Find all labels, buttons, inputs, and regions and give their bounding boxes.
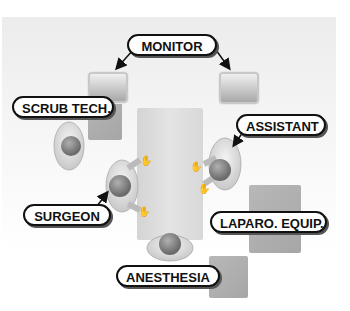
label-monitor: MONITOR	[127, 34, 217, 56]
svg-text:✋: ✋	[138, 205, 150, 217]
anesthesia-figure	[147, 233, 193, 261]
assistant-figure: ✋ ✋	[190, 138, 241, 194]
svg-text:✋: ✋	[140, 154, 152, 166]
surgeon-figure: ✋ ✋	[106, 154, 152, 217]
svg-text:✋: ✋	[190, 160, 202, 172]
label-laparo-equip: LAPARO. EQUIP.	[210, 211, 327, 233]
label-assistant: ASSISTANT	[236, 114, 326, 136]
label-anesthesia: ANESTHESIA	[116, 265, 220, 287]
label-surgeon: SURGEON	[23, 204, 111, 226]
scrub-tech-figure	[54, 122, 84, 170]
svg-text:✋: ✋	[198, 182, 210, 194]
label-scrub-tech: SCRUB TECH.	[12, 96, 114, 118]
